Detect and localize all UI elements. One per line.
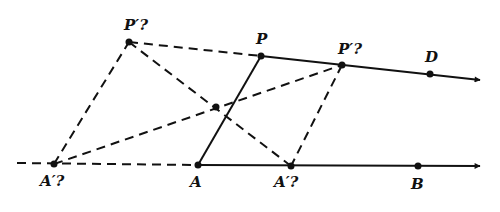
point-P-prime-right xyxy=(339,62,346,69)
ray-PD xyxy=(261,56,480,80)
segment-AP xyxy=(198,56,261,165)
label-P-prime-right: P′? xyxy=(337,40,362,58)
dashed-P-prime-left-to-P xyxy=(129,42,261,56)
point-A-prime-left xyxy=(51,161,58,168)
point-B xyxy=(415,163,422,170)
point-P xyxy=(258,53,265,60)
label-A: A xyxy=(188,173,202,191)
label-A-prime-left: A′? xyxy=(38,172,65,190)
point-P-prime-left xyxy=(126,39,133,46)
label-B: B xyxy=(410,175,424,193)
ray-AB xyxy=(198,165,480,166)
point-A xyxy=(195,162,202,169)
label-A-prime-right: A′? xyxy=(272,173,299,191)
geometry-diagram: P′? P P′? D A′? A A′? B xyxy=(0,0,500,212)
point-center xyxy=(213,104,220,111)
label-P-prime-left: P′? xyxy=(123,16,148,34)
dashed-P-prime-left-to-A-prime-right xyxy=(129,42,291,166)
dashed-extension-left-of-A xyxy=(17,163,198,165)
point-D xyxy=(427,71,434,78)
label-D: D xyxy=(424,48,438,66)
dashed-A-prime-left-to-P-prime-left xyxy=(54,42,129,164)
label-P: P xyxy=(255,30,268,48)
point-A-prime-right xyxy=(288,163,295,170)
